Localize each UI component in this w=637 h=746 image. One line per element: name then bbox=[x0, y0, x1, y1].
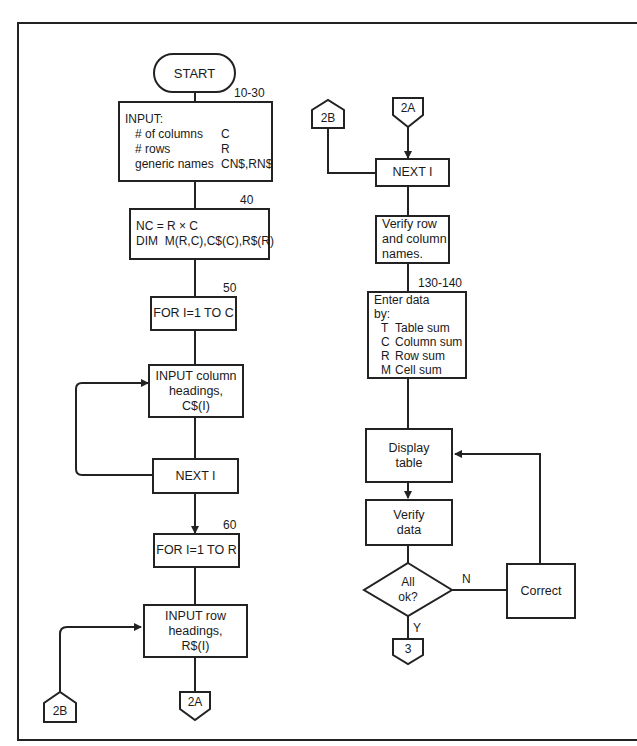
next-i-right-label: NEXT I bbox=[392, 165, 432, 180]
line-ref-60: 60 bbox=[223, 518, 236, 532]
for-rows-label: FOR I=1 TO R bbox=[156, 543, 236, 558]
dim-box: NC = R × C DIM M(R,C),C$(C),R$(R) bbox=[129, 208, 270, 260]
input-column-headings-box: INPUT column headings, C$(I) bbox=[148, 364, 244, 418]
input-key: # rows bbox=[135, 142, 221, 157]
input-row-line: INPUT row bbox=[165, 609, 226, 624]
option-value: Table sum bbox=[395, 321, 450, 335]
dim-line: NC = R × C bbox=[136, 219, 274, 234]
line-ref-130-140: 130-140 bbox=[418, 276, 462, 290]
line-ref-40: 40 bbox=[240, 193, 253, 207]
verify-names-line: Verify row bbox=[382, 217, 447, 232]
next-i-right-box: NEXT I bbox=[375, 158, 450, 187]
correct-box: Correct bbox=[506, 563, 576, 619]
dim-line: DIM M(R,C),C$(C),R$(R) bbox=[136, 234, 274, 249]
verify-names-line: and column bbox=[382, 232, 447, 247]
start-label: START bbox=[174, 66, 215, 81]
start-terminal: START bbox=[153, 53, 236, 93]
for-rows-box: FOR I=1 TO R bbox=[153, 533, 240, 568]
connector-2a-left: 2A bbox=[180, 695, 210, 709]
input-params-box: INPUT: # of columnsC # rowsR generic nam… bbox=[118, 101, 273, 182]
decision-no-label: N bbox=[462, 572, 471, 586]
input-row-line: headings, bbox=[165, 624, 226, 639]
input-row-line: R$(I) bbox=[165, 639, 226, 654]
connector-2b-left: 2B bbox=[44, 704, 76, 718]
input-column-line: C$(I) bbox=[155, 399, 236, 414]
input-value: R bbox=[221, 142, 230, 157]
connector-2b-right: 2B bbox=[312, 111, 344, 125]
verify-names-box: Verify row and column names. bbox=[375, 215, 450, 264]
option-value: Column sum bbox=[395, 335, 462, 349]
verify-data-box: Verify data bbox=[365, 499, 453, 546]
verify-names-line: names. bbox=[382, 247, 447, 262]
option-key: M bbox=[381, 363, 395, 377]
decision-line: ok? bbox=[388, 590, 428, 605]
input-title: INPUT: bbox=[125, 112, 272, 127]
display-table-line: table bbox=[389, 456, 430, 471]
correct-label: Correct bbox=[521, 584, 562, 599]
verify-data-line: Verify bbox=[393, 508, 424, 523]
display-table-line: Display bbox=[389, 441, 430, 456]
next-i-left-box: NEXT I bbox=[152, 458, 239, 494]
option-key: C bbox=[381, 335, 395, 349]
option-key: R bbox=[381, 349, 395, 363]
decision-yes-label: Y bbox=[413, 621, 421, 635]
enter-data-box: Enter data by: TTable sum CColumn sum RR… bbox=[367, 291, 467, 379]
input-row-headings-box: INPUT row headings, R$(I) bbox=[143, 604, 248, 658]
option-value: Cell sum bbox=[395, 363, 442, 377]
next-i-left-label: NEXT I bbox=[175, 469, 215, 484]
input-key: generic names bbox=[135, 157, 221, 172]
option-value: Row sum bbox=[395, 349, 445, 363]
input-column-line: headings, bbox=[155, 384, 236, 399]
input-column-line: INPUT column bbox=[155, 369, 236, 384]
decision-line: All bbox=[388, 575, 428, 590]
enter-data-line: Enter data bbox=[374, 293, 462, 307]
input-value: C bbox=[221, 127, 230, 142]
line-ref-10-30: 10-30 bbox=[234, 86, 265, 100]
input-key: # of columns bbox=[135, 127, 221, 142]
for-columns-label: FOR I=1 TO C bbox=[153, 306, 233, 321]
option-key: T bbox=[381, 321, 395, 335]
enter-data-line: by: bbox=[374, 307, 462, 321]
input-value: CN$,RN$ bbox=[221, 157, 272, 172]
decision-label: All ok? bbox=[388, 575, 428, 605]
line-ref-50: 50 bbox=[223, 281, 236, 295]
connector-2a-right: 2A bbox=[393, 101, 423, 115]
for-columns-box: FOR I=1 TO C bbox=[150, 296, 237, 331]
verify-data-line: data bbox=[393, 523, 424, 538]
display-table-box: Display table bbox=[365, 428, 453, 483]
connector-3: 3 bbox=[393, 642, 423, 656]
